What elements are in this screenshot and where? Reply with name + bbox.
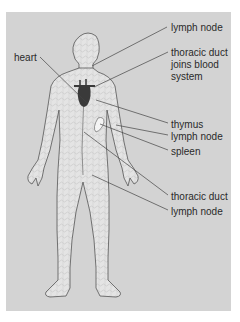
label-lymph-node-groin: lymph node <box>171 206 223 217</box>
label-thoracic-duct-joins-3: system <box>171 71 203 82</box>
label-thoracic-duct-joins-2: joins blood <box>171 59 219 70</box>
label-thoracic-duct-joins-1: thoracic duct <box>171 47 228 58</box>
label-thoracic-duct: thoracic duct <box>171 191 228 202</box>
label-thymus: thymus <box>171 119 203 130</box>
label-lymph-node-arm: lymph node <box>171 131 223 142</box>
label-lymph-node-neck: lymph node <box>171 22 223 33</box>
label-spleen: spleen <box>171 146 200 157</box>
label-heart: heart <box>14 52 37 63</box>
